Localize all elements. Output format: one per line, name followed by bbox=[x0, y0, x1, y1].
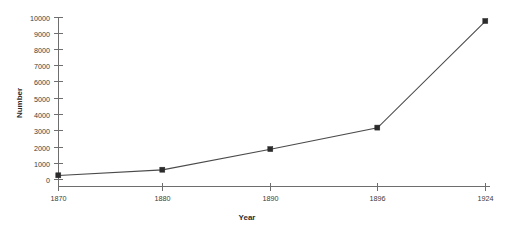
y-tick-label-2000: 2000 bbox=[34, 144, 50, 153]
data-point-1880 bbox=[160, 167, 165, 172]
x-tick-label-1870: 1870 bbox=[51, 194, 67, 203]
y-tick-label-9000: 9000 bbox=[34, 30, 50, 39]
data-series-line bbox=[59, 21, 486, 175]
y-tick-label-8000: 8000 bbox=[34, 46, 50, 55]
x-tick-label-1890: 1890 bbox=[263, 194, 279, 203]
x-tick-label-1924: 1924 bbox=[478, 194, 494, 203]
y-axis-title: Number bbox=[15, 88, 24, 118]
y-tick-label-3000: 3000 bbox=[34, 127, 50, 136]
y-tick-label-4000: 4000 bbox=[34, 111, 50, 120]
chart-canvas: 10000 9000 8000 7000 6000 5000 4000 3000… bbox=[0, 0, 505, 235]
x-tick-label-1880: 1880 bbox=[155, 194, 171, 203]
y-tick-label-1000: 1000 bbox=[34, 160, 50, 169]
y-tick-label-10000: 10000 bbox=[30, 14, 50, 23]
y-tick-label-5000: 5000 bbox=[34, 95, 50, 104]
data-point-1870 bbox=[56, 173, 61, 178]
line-chart-figure: 10000 9000 8000 7000 6000 5000 4000 3000… bbox=[0, 0, 505, 235]
y-tick-label-0: 0 bbox=[46, 176, 50, 185]
data-point-1896 bbox=[375, 125, 380, 130]
x-axis-title: Year bbox=[239, 213, 256, 222]
y-tick-label-6000: 6000 bbox=[34, 78, 50, 87]
x-tick-label-1896: 1896 bbox=[370, 194, 386, 203]
data-point-1890 bbox=[268, 147, 273, 152]
y-tick-label-7000: 7000 bbox=[34, 62, 50, 71]
data-point-1924 bbox=[483, 19, 488, 24]
